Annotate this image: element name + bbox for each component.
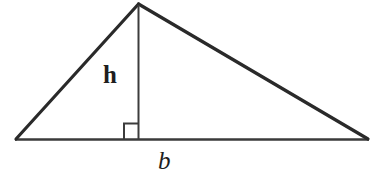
triangle-right-side bbox=[139, 4, 369, 139]
triangle-left-side bbox=[16, 4, 139, 139]
right-angle-marker-icon bbox=[124, 124, 139, 140]
triangle-diagram-figure: h b bbox=[0, 0, 381, 177]
altitude-label-h: h bbox=[103, 62, 117, 87]
base-label-b: b bbox=[158, 148, 171, 173]
triangle-diagram-canvas bbox=[0, 0, 381, 177]
